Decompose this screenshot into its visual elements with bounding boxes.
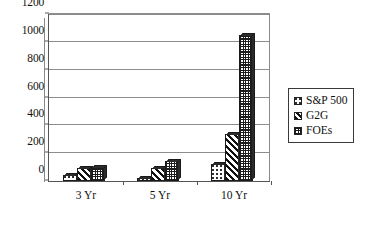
- x-axis-category-label: 5 Yr: [150, 189, 170, 201]
- plot-area: 020040060080010001200 3 Yr5 Yr10 Yr: [48, 14, 270, 182]
- y-axis-tick-label: 0: [38, 163, 44, 175]
- legend-swatch-icon: [294, 112, 302, 120]
- y-tick-mark: [45, 40, 49, 41]
- bar-group: [211, 14, 253, 181]
- x-tick-mark: [197, 181, 198, 185]
- bar: [239, 35, 253, 181]
- legend-item: FOEs: [294, 123, 347, 138]
- x-tick-mark: [271, 181, 272, 185]
- y-tick-mark: [45, 96, 49, 97]
- bar: [77, 168, 91, 181]
- bar-chart: 020040060080010001200 3 Yr5 Yr10 Yr S&P …: [0, 0, 369, 227]
- bar-group: [137, 14, 179, 181]
- bar-side-face: [252, 33, 255, 180]
- y-tick-mark: [45, 68, 49, 69]
- bar: [137, 178, 151, 182]
- bar: [211, 164, 225, 181]
- y-axis-tick-label: 800: [27, 52, 44, 64]
- y-tick-mark: [45, 124, 49, 125]
- y-axis-tick-label: 1000: [22, 24, 44, 36]
- legend-swatch-icon: [294, 127, 302, 135]
- legend-item: S&P 500: [294, 93, 347, 108]
- legend-label: FOEs: [306, 125, 332, 137]
- x-axis-category-label: 10 Yr: [221, 189, 247, 201]
- bar: [165, 161, 179, 181]
- y-tick-mark: [45, 180, 49, 181]
- bar-side-face: [104, 165, 107, 180]
- y-tick-mark: [45, 152, 49, 153]
- bar: [225, 134, 239, 181]
- legend-swatch-icon: [294, 97, 302, 105]
- bar: [151, 168, 165, 181]
- y-axis-tick-label: 400: [27, 107, 44, 119]
- x-axis-category-label: 3 Yr: [76, 189, 96, 201]
- y-axis-tick-label: 200: [27, 135, 44, 147]
- chart-legend: S&P 500G2GFOEs: [288, 88, 354, 143]
- y-axis-tick-label: 1200: [22, 0, 44, 8]
- legend-label: G2G: [306, 110, 328, 122]
- x-tick-mark: [123, 181, 124, 185]
- y-tick-mark: [45, 13, 49, 14]
- legend-item: G2G: [294, 108, 347, 123]
- bar: [91, 167, 105, 181]
- y-axis-tick-label: 600: [27, 80, 44, 92]
- bar-side-face: [178, 159, 181, 180]
- bar-group: [63, 14, 105, 181]
- legend-label: S&P 500: [306, 95, 347, 107]
- bar: [63, 175, 77, 181]
